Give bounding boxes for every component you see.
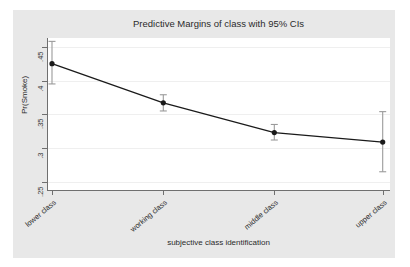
y-axis-title: Pr(Smoke)	[20, 76, 29, 114]
x-tick-mark	[274, 190, 275, 195]
y-tick-label: .45	[36, 51, 45, 61]
gridline	[47, 81, 390, 82]
x-tick-mark	[383, 190, 384, 195]
x-tick-mark	[163, 190, 164, 195]
y-tick-label: .3	[36, 153, 45, 159]
y-axis-line	[47, 38, 48, 190]
y-tick-label: .4	[36, 85, 45, 91]
gridline	[47, 148, 390, 149]
chart-title: Predictive Margins of class with 95% CIs	[47, 18, 390, 29]
chart-screenshot: Predictive Margins of class with 95% CIs…	[0, 0, 410, 267]
gridline	[47, 47, 390, 48]
x-axis-line	[47, 190, 390, 191]
x-tick-mark	[52, 190, 53, 195]
gridline	[47, 182, 390, 183]
gridline	[47, 114, 390, 115]
y-tick-label: .25	[36, 186, 45, 196]
y-tick-label: .35	[36, 119, 45, 129]
x-axis-title: subjective class identification	[47, 238, 390, 247]
